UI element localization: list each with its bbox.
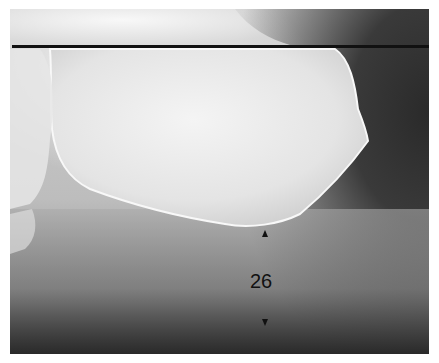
measurement-label: 26 <box>250 270 272 293</box>
arrow-down-marker <box>262 319 268 326</box>
xray-image: 26 <box>10 9 429 354</box>
bone-shapes <box>10 9 429 354</box>
reference-line <box>12 45 429 48</box>
arrow-up-marker <box>262 230 268 237</box>
